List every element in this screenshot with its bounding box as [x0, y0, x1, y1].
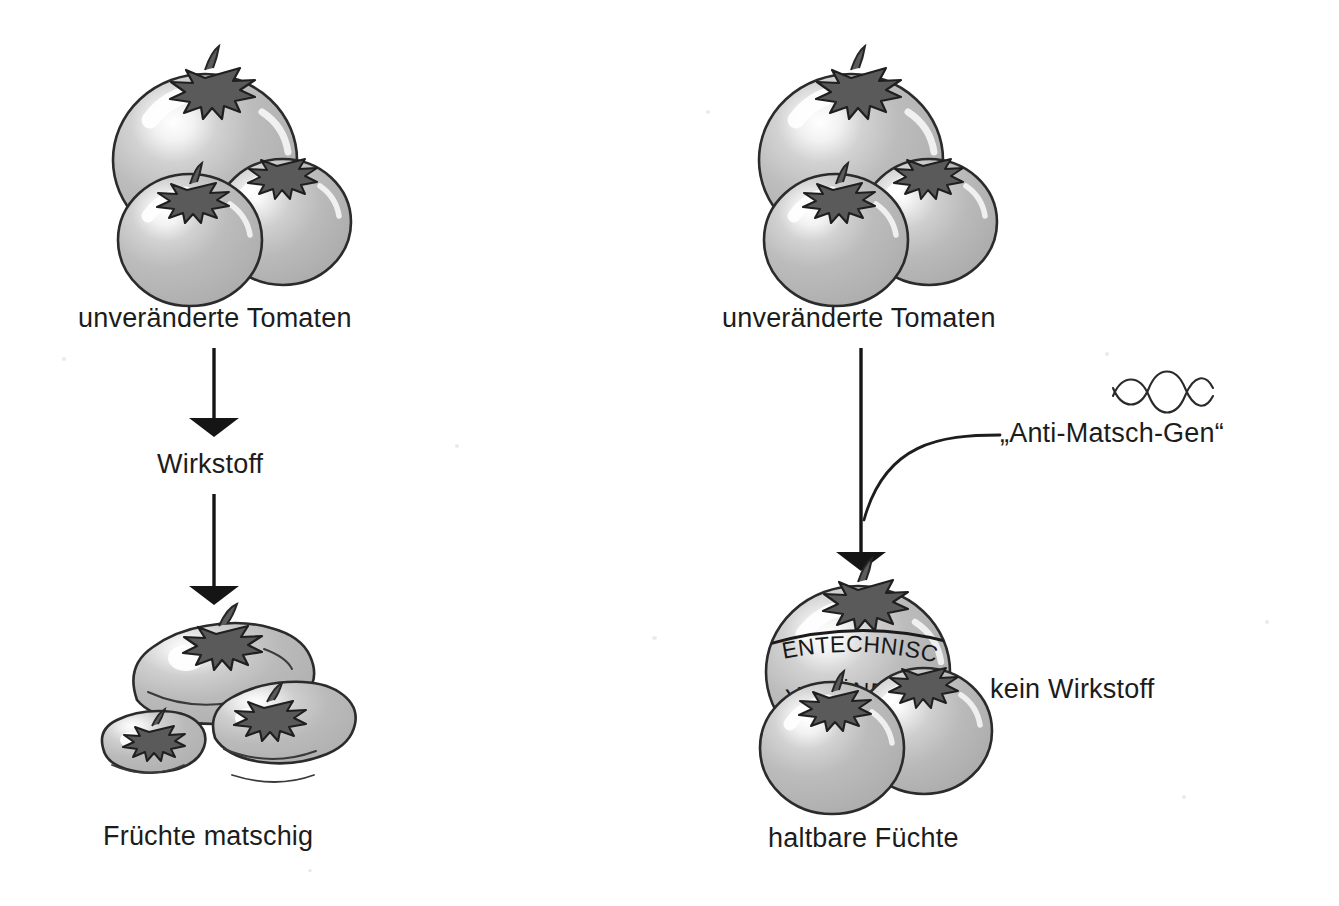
- scan-speck: [706, 110, 710, 114]
- label-kein-wirkstoff: kein Wirkstoff: [990, 676, 1154, 703]
- label-fruechte-matschig: Früchte matschig: [103, 823, 313, 850]
- label-anti-matsch-gen: „Anti-Matsch-Gen“: [1000, 420, 1224, 447]
- scan-speck: [1105, 352, 1109, 356]
- scan-speck: [455, 444, 459, 448]
- curved-connector-line: [864, 435, 1000, 520]
- tomato-cluster-fresh-left: [113, 46, 351, 306]
- label-unveraenderte-tomaten-right: unveränderte Tomaten: [722, 305, 996, 332]
- scan-speck: [308, 869, 312, 872]
- label-haltbare-fuechte: haltbare Füchte: [768, 825, 959, 852]
- tomato-cluster-fresh-right: [759, 46, 997, 306]
- diagram-canvas: GENTECHNISCH VERÄNDERT: [0, 0, 1339, 906]
- label-unveraenderte-tomaten-left: unveränderte Tomaten: [78, 305, 352, 332]
- scan-speck: [1265, 620, 1269, 624]
- mushy-tomato-right: [213, 682, 356, 782]
- scan-speck: [1182, 795, 1186, 799]
- scan-speck: [652, 636, 657, 640]
- tomato-cluster-mushy-left: [102, 604, 356, 782]
- label-wirkstoff: Wirkstoff: [157, 451, 263, 478]
- mushy-tomato-small: [102, 709, 205, 773]
- scan-speck: [62, 357, 66, 361]
- dna-helix-icon: [1113, 372, 1213, 413]
